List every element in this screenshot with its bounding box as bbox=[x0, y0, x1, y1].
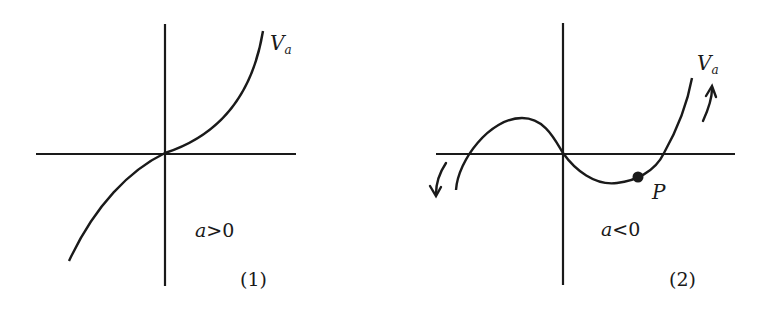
panel-2-condition: a<0 bbox=[601, 218, 640, 240]
panel-1: Va a>0 (1) bbox=[36, 24, 296, 290]
panel-1-caption: (1) bbox=[240, 268, 267, 290]
point-p-label: P bbox=[651, 180, 666, 204]
diagram-canvas: Va a>0 (1) P Va a<0 (2) bbox=[0, 0, 764, 313]
panel-2: P Va a<0 (2) bbox=[430, 23, 735, 290]
panel-2-caption: (2) bbox=[669, 268, 696, 290]
point-p-marker bbox=[633, 172, 644, 183]
up-arrow-icon bbox=[703, 86, 716, 121]
panel-1-condition: a>0 bbox=[195, 219, 234, 241]
down-arrow-icon bbox=[430, 163, 446, 196]
panel-2-curve-va bbox=[456, 78, 692, 190]
panel-2-curve-label: Va bbox=[697, 51, 719, 77]
panel-1-curve-label: Va bbox=[270, 31, 292, 57]
